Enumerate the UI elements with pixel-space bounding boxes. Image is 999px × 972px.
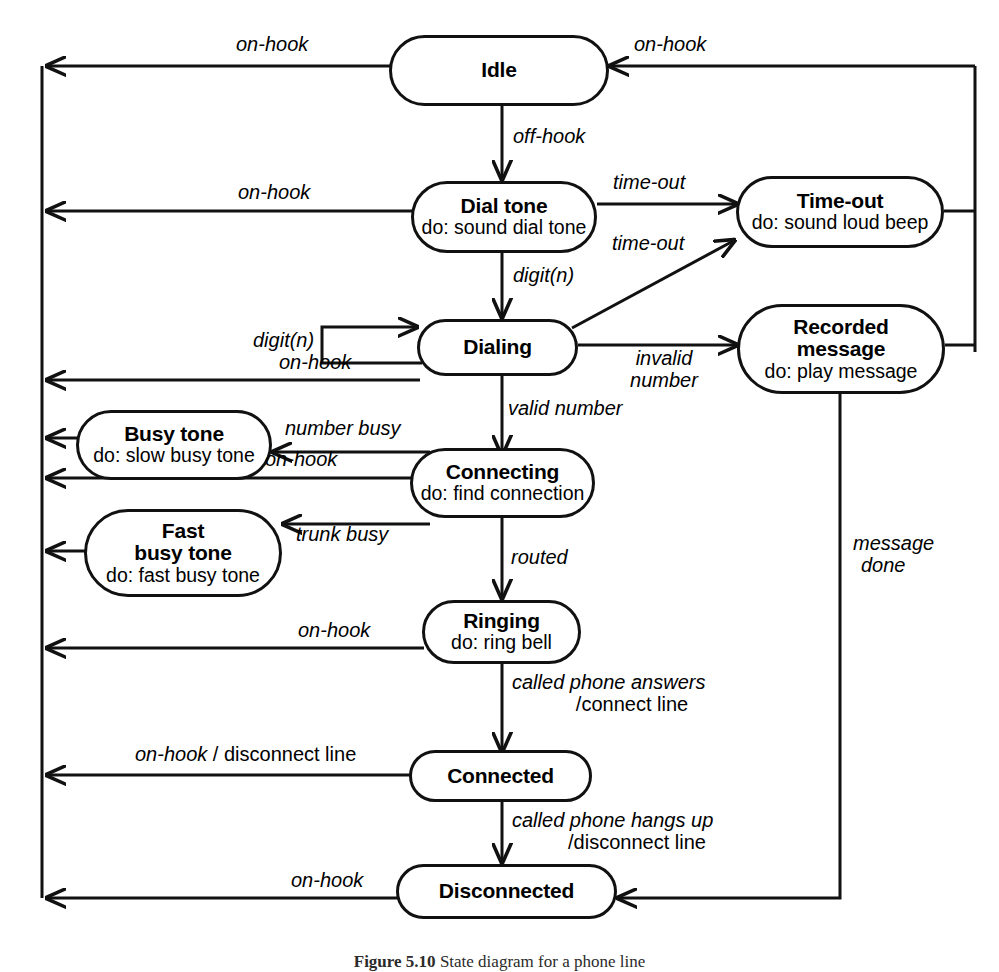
state-idle[interactable]: Idle — [389, 35, 609, 106]
label-idle-offhook-dialtone: off-hook — [513, 126, 585, 148]
label-connecting-routed-ringing: routed — [511, 547, 568, 569]
state-busy-tone[interactable]: Busy tone do: slow busy tone — [76, 410, 272, 480]
label-rightbus-onhook-idle: on-hook — [634, 34, 706, 56]
label-dialtone-digit-dialing: digit(n) — [513, 265, 574, 287]
label-action: / disconnect line — [207, 743, 356, 765]
label-line1: called phone hangs up — [512, 810, 762, 832]
label-recorded-messagedone-disconnected: message done — [853, 533, 983, 576]
label-dialing-timeout: time-out — [612, 233, 684, 255]
state-dial-tone[interactable]: Dial tone do: sound dial tone — [411, 181, 597, 253]
state-activity: do: slow busy tone — [93, 445, 255, 466]
label-disconnected-onhook-left: on-hook — [291, 870, 363, 892]
state-activity: do: find connection — [421, 483, 585, 504]
state-name-line2: message — [797, 338, 886, 360]
label-line1: message — [853, 533, 983, 555]
state-connected[interactable]: Connected — [409, 750, 592, 802]
label-connecting-trunkbusy-fastbusy: trunk busy — [296, 524, 388, 546]
label-line1: called phone answers — [512, 672, 752, 694]
figure-caption-number: Figure 5.10 — [354, 952, 436, 971]
state-time-out[interactable]: Time-out do: sound loud beep — [736, 176, 944, 248]
label-dialing-invalid-recorded: invalid number — [604, 348, 724, 391]
state-connecting[interactable]: Connecting do: find connection — [410, 448, 595, 518]
label-dialtone-timeout: time-out — [613, 172, 685, 194]
state-name: Connecting — [446, 461, 560, 483]
label-ringing-onhook-left: on-hook — [298, 620, 370, 642]
state-name: Idle — [481, 59, 516, 81]
state-activity: do: sound loud beep — [752, 212, 929, 233]
label-dialing-onhook-left: on-hook — [279, 352, 351, 374]
label-line2: number — [604, 370, 724, 392]
state-activity: do: sound dial tone — [422, 217, 587, 238]
state-name: Connected — [447, 765, 554, 787]
state-ringing[interactable]: Ringing do: ring bell — [422, 600, 581, 664]
label-line2: /connect line — [512, 694, 752, 716]
label-connecting-numberbusy-busy: number busy — [285, 418, 401, 440]
label-event: on-hook — [135, 743, 207, 765]
state-name: Ringing — [463, 610, 540, 632]
state-name: Disconnected — [439, 880, 574, 902]
label-connected-onhook-left: on-hook / disconnect line — [135, 744, 356, 766]
label-dialing-self-digit: digit(n) — [253, 330, 314, 352]
state-name-line2: busy tone — [134, 542, 231, 564]
label-line2: done — [853, 555, 983, 577]
state-name: Time-out — [797, 190, 884, 212]
label-connecting-onhook-left: on-hook — [265, 449, 337, 471]
state-activity: do: ring bell — [451, 632, 552, 653]
state-name: Dialing — [463, 336, 532, 358]
state-disconnected[interactable]: Disconnected — [396, 864, 617, 919]
label-connected-hangsup-disconnected: called phone hangs up /disconnect line — [512, 810, 762, 853]
state-activity: do: fast busy tone — [106, 565, 260, 586]
state-name-line1: Fast — [162, 520, 204, 542]
label-line1: invalid — [604, 348, 724, 370]
state-activity: do: play message — [765, 361, 918, 382]
figure-caption: Figure 5.10 State diagram for a phone li… — [0, 952, 999, 972]
state-fast-busy-tone[interactable]: Fast busy tone do: fast busy tone — [84, 509, 282, 597]
label-idle-onhook-left: on-hook — [236, 34, 308, 56]
label-ringing-answers-connected: called phone answers /connect line — [512, 672, 752, 715]
figure-caption-text: State diagram for a phone line — [440, 952, 645, 971]
label-dialtone-onhook-left: on-hook — [238, 182, 310, 204]
state-recorded-message[interactable]: Recorded message do: play message — [737, 304, 945, 394]
label-line2: /disconnect line — [512, 832, 762, 854]
state-dialing[interactable]: Dialing — [417, 319, 578, 376]
state-name: Busy tone — [124, 423, 224, 445]
state-name: Dial tone — [461, 195, 548, 217]
state-name-line1: Recorded — [793, 316, 888, 338]
label-dialing-valid-connecting: valid number — [508, 398, 623, 420]
